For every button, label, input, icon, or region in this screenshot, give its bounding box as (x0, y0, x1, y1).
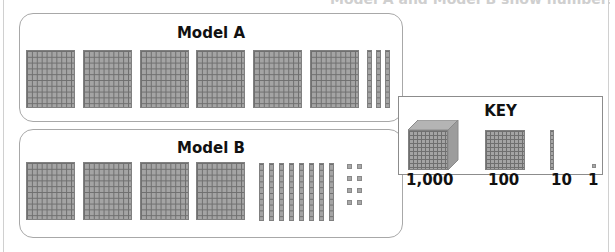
hundred-flat-icon (83, 162, 132, 220)
clipped-header-text: Model A and Model B show numbers (330, 0, 610, 5)
key-title: KEY (399, 102, 602, 120)
key-label-one: 1 (588, 171, 598, 189)
ten-rod-icon (550, 130, 554, 170)
left-frame-border (3, 0, 4, 252)
one-unit-icon (357, 188, 362, 193)
hundred-flat-icon (310, 50, 359, 108)
hundred-flat-icon (196, 162, 245, 220)
one-unit-icon (592, 164, 596, 168)
right-frame-border (608, 0, 609, 252)
ten-rod-icon (299, 163, 304, 221)
ten-rod-icon (279, 163, 284, 221)
key-label-hundred: 100 (488, 171, 519, 189)
hundred-flat-icon (140, 162, 189, 220)
hundred-flat-icon (485, 130, 525, 170)
hundred-flat-icon (140, 50, 189, 108)
ten-rod-icon (259, 163, 264, 221)
thousand-cube-icon (408, 120, 460, 172)
model-b-title: Model B (20, 139, 402, 157)
ten-rod-icon (385, 50, 390, 108)
key-label-ten: 10 (551, 171, 572, 189)
one-unit-icon (357, 164, 362, 169)
ten-rod-icon (319, 163, 324, 221)
ten-rod-icon (376, 50, 381, 108)
ten-rod-icon (309, 163, 314, 221)
ten-rod-icon (269, 163, 274, 221)
hundred-flat-icon (26, 162, 75, 220)
one-unit-icon (347, 164, 352, 169)
key-label-thousand: 1,000 (406, 171, 453, 189)
one-unit-icon (357, 176, 362, 181)
model-a-title: Model A (20, 24, 402, 42)
ten-rod-icon (367, 50, 372, 108)
hundred-flat-icon (26, 50, 75, 108)
one-unit-icon (347, 188, 352, 193)
ten-rod-icon (329, 163, 334, 221)
key-box: KEY 1,000 100 10 1 (398, 96, 603, 175)
one-unit-icon (347, 176, 352, 181)
hundred-flat-icon (196, 50, 245, 108)
ten-rod-icon (289, 163, 294, 221)
hundred-flat-icon (253, 50, 302, 108)
one-unit-icon (347, 200, 352, 205)
one-unit-icon (357, 200, 362, 205)
hundred-flat-icon (83, 50, 132, 108)
